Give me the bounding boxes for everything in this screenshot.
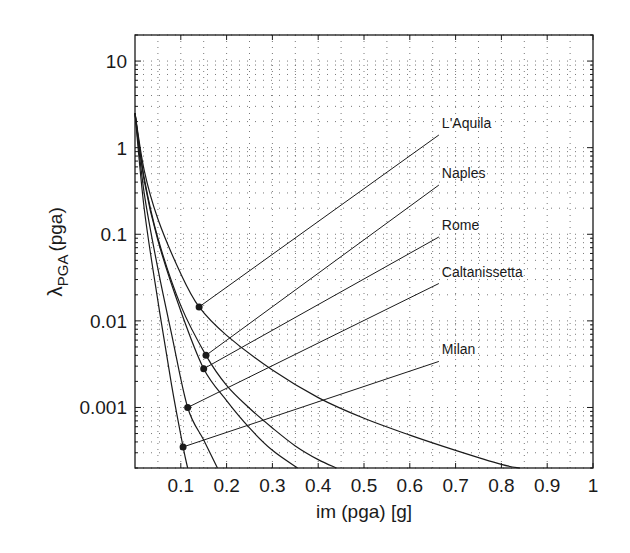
- y-tick-label: 10: [106, 51, 127, 72]
- x-axis-label: im (pga) [g]: [316, 501, 412, 522]
- x-tick-label: 0.2: [213, 475, 239, 496]
- hazard-curve-chart: L'AquilaNaplesRomeCaltanissettaMilan 0.1…: [0, 0, 630, 553]
- label-caltanissetta: Caltanissetta: [442, 264, 523, 280]
- label-rome: Rome: [442, 217, 480, 233]
- site-labels: L'AquilaNaplesRomeCaltanissettaMilan: [442, 115, 523, 357]
- label-naples: Naples: [442, 165, 486, 181]
- y-tick-label: 1: [116, 138, 127, 159]
- grid: [135, 35, 593, 468]
- leader-line-rome: [204, 237, 439, 369]
- marker-naples: [202, 352, 209, 359]
- y-tick-label: 0.01: [90, 311, 127, 332]
- label-l-aquila: L'Aquila: [442, 115, 492, 131]
- x-tick-label: 0.8: [488, 475, 514, 496]
- x-tick-label: 0.3: [259, 475, 285, 496]
- curve-rome: [135, 113, 298, 468]
- leader-line-l-aquila: [199, 135, 439, 307]
- marker-rome: [200, 365, 207, 372]
- curve-naples: [135, 113, 337, 468]
- x-tick-label: 0.6: [397, 475, 423, 496]
- marker-caltanissetta: [184, 404, 191, 411]
- x-tick-label: 0.9: [534, 475, 560, 496]
- leader-lines: [183, 135, 439, 447]
- x-tick-label: 0.5: [351, 475, 377, 496]
- x-tick-labels: 0.10.20.30.40.50.60.70.80.91: [168, 475, 599, 496]
- y-axis-label-sub: PGA: [54, 255, 71, 287]
- curve-caltanissetta: [135, 113, 217, 468]
- marker-milan: [180, 443, 187, 450]
- leader-line-naples: [206, 185, 439, 355]
- leader-line-milan: [183, 361, 439, 447]
- site-markers: [180, 303, 210, 450]
- y-axis-label-suffix: (pga): [45, 207, 66, 251]
- label-milan: Milan: [442, 341, 475, 357]
- leader-line-caltanissetta: [188, 284, 439, 408]
- x-tick-label: 1: [588, 475, 599, 496]
- y-tick-label: 0.1: [101, 224, 127, 245]
- marker-l-aquila: [196, 303, 203, 310]
- x-tick-label: 0.1: [168, 475, 194, 496]
- y-tick-labels: 1010.10.010.001: [79, 51, 127, 418]
- y-axis-label: λPGA(pga): [43, 207, 71, 297]
- svg-text:λPGA(pga): λPGA(pga): [43, 207, 71, 297]
- x-tick-label: 0.7: [442, 475, 468, 496]
- x-tick-label: 0.4: [305, 475, 332, 496]
- y-tick-label: 0.001: [79, 397, 127, 418]
- y-axis-label-main: λ: [43, 286, 66, 297]
